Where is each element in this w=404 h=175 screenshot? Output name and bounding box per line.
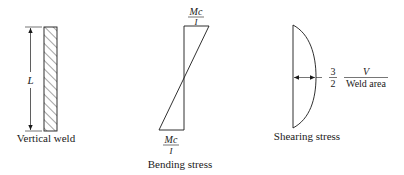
v-over-weld-area-ratio: V Weld area <box>344 66 388 89</box>
top-mc-over-i-label: Mc I <box>188 6 204 27</box>
svg-text:2: 2 <box>331 78 336 89</box>
vertical-weld-panel: L Vertical weld <box>17 27 76 144</box>
length-label: L <box>26 74 33 86</box>
three-halves-coefficient: 3 2 <box>329 66 337 89</box>
svg-text:Mc: Mc <box>189 6 203 17</box>
svg-text:Mc: Mc <box>164 134 178 145</box>
bending-stress-caption: Bending stress <box>148 158 212 170</box>
vertical-weld-caption: Vertical weld <box>17 132 76 144</box>
svg-text:I: I <box>194 17 199 27</box>
svg-text:V: V <box>363 66 371 77</box>
svg-text:I: I <box>169 146 174 156</box>
svg-text:Weld area: Weld area <box>346 78 387 89</box>
parabolic-shear-profile <box>293 25 316 128</box>
shearing-stress-caption: Shearing stress <box>274 130 340 142</box>
svg-text:3: 3 <box>331 66 336 77</box>
shearing-stress-panel: 3 2 V Weld area Shearing stress <box>274 25 388 142</box>
weld-hatched-bar <box>44 27 57 131</box>
bottom-mc-over-i-label: Mc I <box>163 134 179 156</box>
bending-stress-panel: Mc I Mc I Bending stress <box>148 6 212 170</box>
weld-stress-diagram: L Vertical weld Mc I Mc I Bending stress… <box>0 0 404 175</box>
